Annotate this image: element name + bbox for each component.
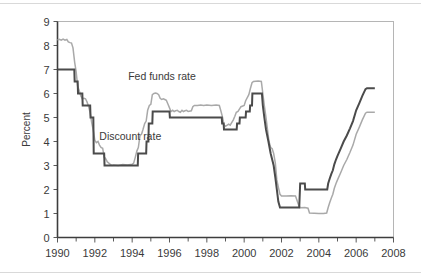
y-axis-tick-label: 9	[43, 16, 49, 28]
x-axis-tick-label: 1992	[83, 247, 107, 259]
x-axis-tick-label: 2002	[269, 247, 293, 259]
x-axis-tick-label: 1998	[195, 247, 219, 259]
y-axis-tick-label: 8	[43, 40, 49, 52]
bottom-divider-rule	[0, 272, 421, 273]
y-axis-tick-label: 5	[43, 112, 49, 124]
y-axis-tick-label: 6	[43, 88, 49, 100]
y-axis-tick-label: 7	[43, 64, 49, 76]
x-axis-tick-label: 2004	[307, 247, 331, 259]
series-label-discount-rate: Discount rate	[99, 130, 161, 142]
y-axis-tick-label: 1	[43, 208, 49, 220]
y-axis-tick-label: 2	[43, 184, 49, 196]
top-divider-rule	[0, 3, 421, 4]
y-axis-tick-label: 3	[43, 160, 49, 172]
x-axis-tick-label: 2008	[381, 247, 405, 259]
chart-figure: 0123456789199019921994199619982000200220…	[0, 0, 421, 277]
x-axis-tick-label: 2006	[344, 247, 368, 259]
series-label-fed-funds-rate: Fed funds rate	[128, 70, 196, 82]
x-axis-tick-label: 1994	[120, 247, 144, 259]
y-axis-tick-label: 4	[43, 136, 49, 148]
line-chart-svg: 0123456789199019921994199619982000200220…	[0, 0, 421, 277]
y-axis-tick-label: 0	[43, 232, 49, 244]
y-axis-title: Percent	[21, 112, 32, 147]
x-axis-tick-label: 1996	[157, 247, 181, 259]
x-axis-tick-label: 1990	[45, 247, 69, 259]
x-axis-tick-label: 2000	[232, 247, 256, 259]
